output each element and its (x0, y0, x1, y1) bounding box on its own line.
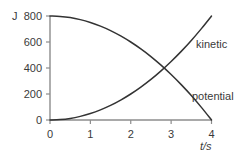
potential-energy-curve (50, 16, 212, 120)
x-tick-label: 1 (75, 129, 105, 140)
x-tick-label: 0 (35, 129, 65, 140)
kinetic-series-label: kinetic (196, 39, 227, 50)
y-tick-label: 200 (2, 89, 42, 100)
y-tick-label: 0 (2, 115, 42, 126)
y-tick-label: 800 (2, 11, 42, 22)
x-tick-label: 2 (116, 129, 146, 140)
y-tick-label: 400 (2, 63, 42, 74)
x-tick-label: 4 (197, 129, 227, 140)
x-axis-title: t/s (200, 141, 212, 152)
kinetic-energy-curve (50, 16, 212, 120)
y-axis-unit-label: J (12, 11, 18, 22)
x-tick-label: 3 (156, 129, 186, 140)
y-tick-label: 600 (2, 37, 42, 48)
energy-vs-time-chart: 0200400600800 01234 J t/s kinetic potent… (0, 0, 251, 158)
potential-series-label: potential (192, 91, 234, 102)
